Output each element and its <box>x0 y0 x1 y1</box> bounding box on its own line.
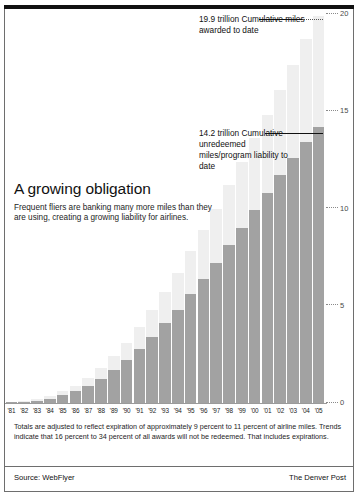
x-axis-tick-label: '81 <box>5 405 18 417</box>
y-axis-tick-label: 10 <box>340 204 348 213</box>
tick-leader-dots <box>326 207 338 208</box>
x-axis-tick-label: '95 <box>184 405 197 417</box>
tick-leader-dots <box>326 402 338 403</box>
leader-line-awarded <box>259 19 302 20</box>
infographic-page: 05101520 '81'82'83'84'85'86'87'88'89'90'… <box>0 0 360 498</box>
bar-unredeemed <box>121 360 133 403</box>
top-rule <box>4 5 354 9</box>
page-subtitle: Frequent fliers are banking many more mi… <box>14 203 214 224</box>
bar-unredeemed <box>95 379 107 403</box>
bar-group <box>312 14 325 403</box>
y-axis-tick-label: 0 <box>340 398 344 407</box>
x-axis-tick-label: '86 <box>69 405 82 417</box>
bar-unredeemed <box>210 263 222 403</box>
x-axis-tick-label: '01 <box>261 405 274 417</box>
y-axis-tick-label: 15 <box>340 106 348 115</box>
bar-group <box>299 14 312 403</box>
x-axis-tick-label: '96 <box>197 405 210 417</box>
bar-unredeemed <box>185 294 197 403</box>
bar-unredeemed <box>146 337 158 403</box>
x-axis-tick-label: '00 <box>248 405 261 417</box>
x-axis-tick-label: '85 <box>56 405 69 417</box>
x-axis-tick-label: '89 <box>107 405 120 417</box>
bar-unredeemed <box>274 175 286 403</box>
tick-leader-dots <box>326 304 338 305</box>
x-axis-tick-label: '88 <box>95 405 108 417</box>
bar-unredeemed <box>172 310 184 403</box>
bar-group <box>274 14 287 403</box>
bar-unredeemed <box>159 323 171 403</box>
bar-unredeemed <box>236 228 248 403</box>
page-title: A growing obligation <box>14 180 151 198</box>
y-axis-tick: 20 <box>326 9 348 19</box>
x-axis-tick-label: '99 <box>235 405 248 417</box>
bar-unredeemed <box>134 349 146 403</box>
bar-unredeemed <box>82 386 94 404</box>
bar-group <box>248 14 261 403</box>
x-axis-tick-label: '94 <box>171 405 184 417</box>
bar-group <box>261 14 274 403</box>
x-axis-tick-label: '97 <box>210 405 223 417</box>
x-axis-tick-label: '83 <box>31 405 44 417</box>
bar-unredeemed <box>287 158 299 403</box>
bar-unredeemed <box>313 127 325 403</box>
footer-rule <box>5 466 353 467</box>
tick-leader-dots <box>326 13 338 14</box>
axis-baseline <box>5 403 327 404</box>
bar-unredeemed <box>262 193 274 403</box>
bar-unredeemed <box>249 210 261 403</box>
bar-group <box>287 14 300 403</box>
bar-unredeemed <box>198 279 210 403</box>
x-axis-tick-label: '90 <box>120 405 133 417</box>
bar-group <box>223 14 236 403</box>
tick-leader-dots <box>326 110 338 111</box>
y-axis-tick-label: 20 <box>340 9 348 18</box>
leader-dots-awarded <box>303 19 323 20</box>
x-axis-tick-label: '91 <box>133 405 146 417</box>
y-axis-tick: 5 <box>326 301 344 311</box>
bar-unredeemed <box>57 395 69 403</box>
x-axis-tick-label: '03 <box>287 405 300 417</box>
x-axis: '81'82'83'84'85'86'87'88'89'90'91'92'93'… <box>5 405 325 418</box>
x-axis-tick-label: '05 <box>312 405 325 417</box>
publication-credit: The Denver Post <box>289 473 346 482</box>
x-axis-tick-label: '93 <box>159 405 172 417</box>
x-axis-tick-label: '84 <box>43 405 56 417</box>
y-axis-tick: 15 <box>326 106 348 116</box>
x-axis-tick-label: '02 <box>274 405 287 417</box>
source-label: Source: WebFlyer <box>14 473 75 482</box>
bar-unredeemed <box>300 142 312 403</box>
x-axis-tick-label: '87 <box>82 405 95 417</box>
x-axis-tick-label: '82 <box>18 405 31 417</box>
y-axis-tick: 0 <box>326 398 344 408</box>
leader-line-unredeemed <box>265 133 323 134</box>
chart-footnote: Totals are adjusted to reflect expiratio… <box>14 422 344 441</box>
x-axis-tick-label: '92 <box>146 405 159 417</box>
bar-unredeemed <box>223 245 235 403</box>
x-axis-tick-label: '98 <box>223 405 236 417</box>
bar-unredeemed <box>108 370 120 403</box>
y-axis-tick: 10 <box>326 204 348 214</box>
bar-unredeemed <box>70 391 82 403</box>
callout-awarded: 19.9 trillion Cumulative miles awarded t… <box>199 14 309 36</box>
bar-group <box>235 14 248 403</box>
callout-unredeemed: 14.2 trillion Cumulative unredeemed mile… <box>199 128 299 172</box>
y-axis-tick-label: 5 <box>340 301 344 310</box>
x-axis-tick-label: '04 <box>299 405 312 417</box>
